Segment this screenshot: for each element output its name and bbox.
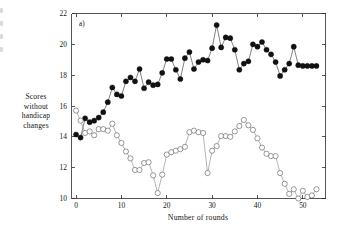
data-point-marker <box>291 187 296 192</box>
data-point-marker <box>268 52 273 57</box>
data-point-marker <box>246 59 251 64</box>
x-tick-label: 0 <box>74 201 78 210</box>
data-point-marker <box>214 22 219 27</box>
data-point-marker <box>273 154 278 159</box>
data-point-marker <box>296 63 301 68</box>
data-point-marker <box>137 66 142 71</box>
data-point-marker <box>119 140 124 145</box>
data-point-marker <box>128 156 133 161</box>
data-point-marker <box>241 117 246 122</box>
data-point-marker <box>110 121 115 126</box>
data-point-marker <box>237 67 242 72</box>
x-axis-label: Number of rounds <box>71 213 325 222</box>
panel-label: a) <box>79 20 85 28</box>
series-line <box>76 25 316 138</box>
data-point-marker <box>155 82 160 87</box>
data-point-marker <box>187 49 192 54</box>
data-point-marker <box>273 59 278 64</box>
data-point-marker <box>282 67 287 72</box>
plot-area: 10121416182022 01020304050 a) <box>0 0 343 234</box>
data-point-marker <box>151 173 156 178</box>
y-tick-label: 20 <box>60 40 68 49</box>
x-tick-label: 10 <box>118 201 126 210</box>
data-point-marker <box>300 188 305 193</box>
data-point-marker <box>178 76 183 81</box>
data-point-marker <box>169 56 174 61</box>
y-tick-label: 16 <box>60 102 68 111</box>
data-point-marker <box>78 135 83 140</box>
data-point-marker <box>309 193 314 198</box>
data-point-marker <box>123 149 128 154</box>
data-point-marker <box>182 56 187 61</box>
x-axis-ticks: 01020304050 <box>74 14 307 211</box>
data-point-marker <box>128 75 133 80</box>
data-point-marker <box>228 134 233 139</box>
data-point-marker <box>246 123 251 128</box>
data-point-marker <box>160 70 165 75</box>
data-point-marker <box>314 63 319 68</box>
data-point-marker <box>278 73 283 78</box>
data-point-marker <box>232 47 237 52</box>
data-point-marker <box>282 181 287 186</box>
y-tick-label: 22 <box>60 9 68 18</box>
data-point-marker <box>210 46 215 51</box>
data-point-marker <box>205 58 210 63</box>
data-point-marker <box>73 132 78 137</box>
data-point-marker <box>146 160 151 165</box>
x-tick-label: 40 <box>254 201 262 210</box>
data-point-marker <box>200 57 205 62</box>
data-point-marker <box>259 145 264 150</box>
data-point-marker <box>92 133 97 138</box>
series-markers <box>73 22 319 201</box>
data-point-marker <box>219 45 224 50</box>
data-point-marker <box>105 100 110 105</box>
y-tick-label: 14 <box>60 132 68 141</box>
data-point-marker <box>101 110 106 115</box>
data-point-marker <box>78 118 83 123</box>
data-point-marker <box>73 108 78 113</box>
data-point-marker <box>296 196 301 201</box>
y-axis-ticks: 10121416182022 <box>60 9 326 203</box>
data-point-marker <box>173 67 178 72</box>
data-point-marker <box>123 79 128 84</box>
data-point-marker <box>255 136 260 141</box>
data-point-marker <box>287 191 292 196</box>
data-point-marker <box>141 86 146 91</box>
data-point-marker <box>110 85 115 90</box>
data-point-marker <box>287 61 292 66</box>
data-point-marker <box>182 144 187 149</box>
data-point-marker <box>146 80 151 85</box>
data-point-marker <box>205 170 210 175</box>
data-point-marker <box>92 118 97 123</box>
data-point-marker <box>114 133 119 138</box>
data-point-marker <box>228 36 233 41</box>
y-tick-label: 12 <box>60 163 68 172</box>
data-point-marker <box>237 123 242 128</box>
data-point-marker <box>278 170 283 175</box>
data-point-marker <box>155 191 160 196</box>
data-point-marker <box>291 44 296 49</box>
data-point-marker <box>264 47 269 52</box>
data-point-marker <box>87 129 92 134</box>
data-point-marker <box>255 44 260 49</box>
data-point-marker <box>105 128 110 133</box>
data-point-marker <box>214 143 219 148</box>
data-point-marker <box>210 148 215 153</box>
data-point-marker <box>151 83 156 88</box>
data-point-marker <box>314 187 319 192</box>
data-point-marker <box>191 66 196 71</box>
x-tick-label: 20 <box>163 201 171 210</box>
x-tick-label: 30 <box>208 201 216 210</box>
y-tick-label: 10 <box>60 194 68 203</box>
data-point-marker <box>223 35 228 40</box>
data-point-marker <box>160 172 165 177</box>
y-tick-label: 18 <box>60 71 68 80</box>
data-point-marker <box>200 130 205 135</box>
data-point-marker <box>96 115 101 120</box>
data-point-marker <box>132 79 137 84</box>
x-tick-label: 50 <box>299 201 307 210</box>
chart-figure: Scores without handicap changes 10121416… <box>0 0 343 234</box>
data-point-marker <box>259 39 264 44</box>
data-point-marker <box>119 93 124 98</box>
axis-frame <box>72 14 326 199</box>
